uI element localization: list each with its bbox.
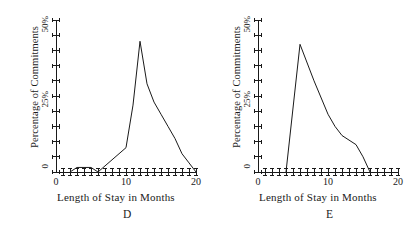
y-tick-label-50-e: 50% <box>243 16 252 33</box>
data-line <box>286 44 370 172</box>
x-axis-title-e: Length of Stay in Months <box>259 192 377 203</box>
panel-letter-d: D <box>123 209 131 221</box>
axes-group <box>255 18 400 175</box>
y-tick-label-0-d: 0 <box>41 164 50 169</box>
x-tick-label-20-e: 20 <box>390 177 406 187</box>
chart-panel-e: Percentage of Commitments 50% 25% 0 0 10… <box>209 0 418 230</box>
x-tick-label-0-d: 0 <box>48 177 64 187</box>
data-line <box>70 41 196 172</box>
x-tick-label-10-e: 10 <box>320 177 336 187</box>
x-axis-title-d: Length of Stay in Months <box>57 192 175 203</box>
figure-two-panel-line-charts: Percentage of Commitments 50% 25% 0 0 10… <box>0 0 418 230</box>
panel-letter-e: E <box>326 209 333 221</box>
axes-group <box>53 18 198 175</box>
y-tick-label-50-d: 50% <box>41 16 50 33</box>
x-tick-label-20-d: 20 <box>188 177 204 187</box>
chart-panel-d: Percentage of Commitments 50% 25% 0 0 10… <box>0 0 209 230</box>
x-tick-label-0-e: 0 <box>250 177 266 187</box>
x-tick-label-10-d: 10 <box>118 177 134 187</box>
y-tick-label-25-d: 25% <box>41 91 50 108</box>
y-axis-title-e: Percentage of Commitments <box>232 26 243 148</box>
y-tick-label-0-e: 0 <box>243 164 252 169</box>
y-axis-title-d: Percentage of Commitments <box>30 26 41 148</box>
y-tick-label-25-e: 25% <box>243 91 252 108</box>
